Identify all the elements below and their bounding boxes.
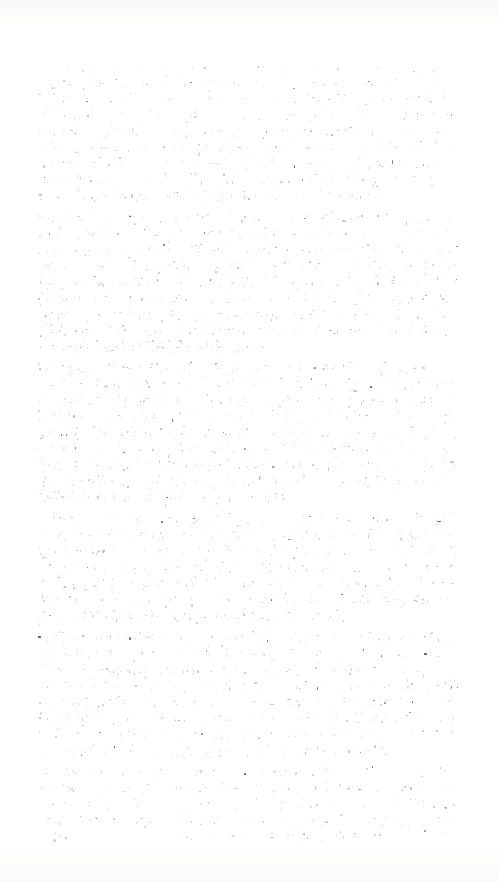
ink-speck	[41, 327, 42, 328]
ink-speck	[414, 453, 415, 454]
ink-speck	[247, 162, 248, 164]
ink-speck	[431, 405, 432, 406]
ink-speck	[285, 262, 286, 263]
ink-speck	[384, 362, 386, 363]
ink-speck	[48, 549, 49, 550]
ink-speck	[365, 114, 366, 115]
ink-speck	[99, 265, 100, 266]
ink-speck	[348, 378, 350, 379]
ink-speck	[131, 582, 132, 583]
ink-speck	[397, 145, 399, 148]
ink-speck	[437, 518, 439, 520]
ink-speck	[266, 671, 267, 672]
ink-speck	[57, 313, 58, 315]
ink-speck	[262, 482, 263, 483]
ink-speck	[269, 349, 270, 350]
ink-speck	[170, 197, 171, 198]
ink-speck	[268, 745, 269, 746]
ink-speck	[174, 617, 175, 619]
ink-speck	[220, 279, 222, 280]
ink-speck	[151, 582, 152, 583]
ink-speck	[350, 218, 351, 219]
ink-speck	[42, 580, 44, 581]
ink-speck	[234, 82, 236, 84]
ink-speck	[258, 219, 259, 221]
ink-speck	[63, 96, 64, 97]
ink-speck	[307, 838, 309, 839]
ink-speck	[48, 309, 50, 310]
ink-speck	[275, 101, 276, 102]
ink-speck	[47, 398, 48, 399]
ink-speck	[304, 734, 305, 735]
ink-speck	[263, 236, 264, 237]
ink-speck	[292, 282, 294, 284]
ink-speck	[211, 704, 212, 706]
ink-speck	[151, 364, 152, 365]
ink-speck	[357, 246, 358, 247]
ink-speck	[80, 700, 81, 701]
ink-speck	[91, 332, 92, 333]
ink-speck	[46, 110, 47, 111]
ink-speck	[107, 253, 108, 254]
ink-speck	[163, 718, 164, 719]
ink-speck	[303, 833, 304, 835]
ink-speck	[51, 141, 52, 143]
ink-speck	[168, 340, 169, 342]
ink-speck	[370, 83, 372, 84]
ink-speck	[401, 245, 402, 246]
ink-speck	[265, 276, 266, 278]
ink-speck	[346, 417, 347, 418]
ink-speck	[58, 535, 59, 536]
ink-speck	[340, 615, 341, 616]
ink-speck	[57, 96, 58, 97]
ink-speck	[288, 398, 290, 399]
ink-speck	[80, 816, 81, 817]
ink-speck	[329, 192, 330, 194]
ink-speck	[120, 671, 121, 672]
ink-speck	[445, 807, 447, 808]
ink-speck	[365, 670, 366, 672]
ink-speck	[319, 326, 320, 328]
ink-speck	[314, 367, 315, 369]
ink-speck	[98, 550, 100, 551]
ink-speck	[452, 583, 453, 584]
ink-speck	[356, 311, 357, 312]
ink-speck	[270, 631, 271, 632]
ink-speck	[229, 434, 230, 435]
ink-speck	[47, 300, 48, 301]
ink-speck	[116, 463, 117, 464]
ink-speck	[336, 518, 338, 520]
ink-speck	[71, 366, 72, 367]
ink-speck	[92, 536, 93, 537]
ink-speck	[89, 573, 90, 574]
ink-speck	[388, 638, 390, 639]
ink-speck	[107, 351, 108, 352]
ink-speck	[330, 550, 332, 551]
ink-speck	[216, 344, 217, 346]
ink-speck	[77, 433, 78, 434]
ink-speck	[163, 146, 164, 148]
ink-speck	[205, 297, 206, 298]
ink-speck	[271, 732, 272, 734]
ink-speck	[174, 700, 175, 702]
ink-speck	[450, 789, 451, 790]
ink-speck	[401, 285, 402, 286]
ink-speck	[449, 267, 450, 268]
ink-speck	[417, 595, 418, 597]
ink-speck	[274, 266, 276, 267]
ink-speck	[365, 314, 367, 315]
ink-speck	[123, 785, 124, 786]
ink-speck	[103, 343, 104, 344]
ink-speck	[156, 363, 157, 365]
ink-speck	[80, 417, 81, 418]
ink-speck	[89, 234, 91, 235]
ink-speck	[383, 193, 384, 194]
ink-speck	[288, 263, 289, 264]
ink-speck	[65, 653, 66, 655]
ink-speck	[210, 80, 211, 81]
ink-speck	[161, 298, 162, 299]
ink-speck	[379, 789, 380, 791]
ink-speck	[211, 636, 213, 638]
ink-speck	[243, 332, 244, 334]
ink-speck	[306, 749, 308, 750]
